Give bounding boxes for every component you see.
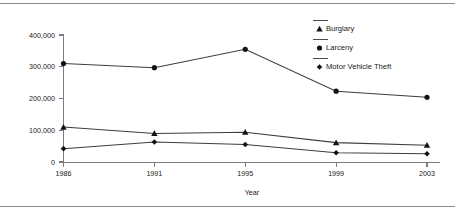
y-axis-tick-labels: 0100,000200,000300,000400,000 — [29, 31, 55, 167]
data-point-diamond — [333, 150, 339, 156]
data-point-diamond — [242, 142, 248, 148]
data-point-circle — [317, 45, 322, 50]
y-tick-label: 400,000 — [29, 31, 55, 40]
data-point-circle — [61, 61, 66, 66]
data-point-diamond — [317, 64, 323, 70]
data-point-circle — [152, 65, 157, 70]
data-point-diamond — [424, 151, 430, 157]
legend-label-burglary: Burglary — [326, 24, 354, 33]
data-point-triangle — [316, 26, 322, 32]
data-point-diamond — [61, 146, 67, 152]
x-tick-label: 1991 — [146, 169, 162, 178]
x-tick-label: 1999 — [328, 169, 344, 178]
legend-label-larceny: Larceny — [326, 43, 353, 52]
x-axis-title: Year — [245, 188, 260, 197]
x-tick-label: 1986 — [56, 169, 72, 178]
series-line-larceny — [64, 49, 428, 97]
y-axis-ticks — [59, 35, 64, 162]
y-tick-label: 200,000 — [29, 94, 55, 103]
data-point-diamond — [152, 139, 158, 145]
chart-legend: BurglaryLarcenyMotor Vehicle Theft — [313, 21, 392, 72]
x-tick-label: 2003 — [419, 169, 435, 178]
data-point-circle — [424, 95, 429, 100]
x-axis-tick-labels: 19861991199519992003 — [56, 169, 436, 178]
y-tick-label: 100,000 — [29, 126, 55, 135]
x-axis-ticks — [64, 163, 428, 168]
chart-figure: 0100,000200,000300,000400,000 1986199119… — [0, 0, 455, 212]
y-tick-label: 0 — [51, 158, 55, 167]
legend-label-motor-vehicle-theft: Motor Vehicle Theft — [326, 62, 392, 71]
line-chart-canvas: 0100,000200,000300,000400,000 1986199119… — [0, 0, 455, 212]
data-point-circle — [243, 47, 248, 52]
y-tick-label: 300,000 — [29, 62, 55, 71]
data-point-circle — [334, 89, 339, 94]
x-tick-label: 1995 — [237, 169, 253, 178]
